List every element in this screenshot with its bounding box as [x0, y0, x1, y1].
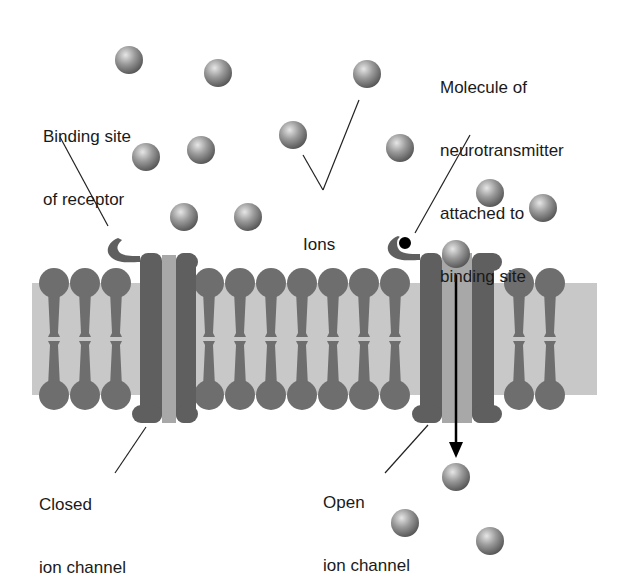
- label-closed-channel: Closed ion channel: [39, 452, 126, 581]
- ion: [204, 59, 232, 87]
- label-line: Open: [323, 492, 410, 513]
- ion: [442, 463, 470, 491]
- label-ions: Ions: [303, 192, 335, 276]
- label-line: Molecule of: [440, 77, 564, 98]
- label-line: binding site: [440, 266, 564, 287]
- ion: [187, 136, 215, 164]
- label-line: Closed: [39, 494, 126, 515]
- ion: [115, 46, 143, 74]
- label-line: ion channel: [323, 555, 410, 576]
- ion: [386, 134, 414, 162]
- label-open-channel: Open ion channel: [323, 450, 410, 581]
- ion: [132, 143, 160, 171]
- binding-site-hook: [108, 238, 140, 262]
- label-line: Ions: [303, 234, 335, 255]
- label-line: of receptor: [43, 189, 131, 210]
- label-molecule: Molecule of neurotransmitter attached to…: [440, 35, 564, 308]
- ion: [353, 60, 381, 88]
- label-line: Binding site: [43, 126, 131, 147]
- label-line: neurotransmitter: [440, 140, 564, 161]
- label-binding-site: Binding site of receptor: [43, 84, 131, 231]
- ion: [170, 203, 198, 231]
- neurotransmitter-molecule: [398, 236, 412, 250]
- label-line: ion channel: [39, 557, 126, 578]
- label-line: attached to: [440, 203, 564, 224]
- ion: [234, 203, 262, 231]
- ion: [476, 527, 504, 555]
- ion: [279, 121, 307, 149]
